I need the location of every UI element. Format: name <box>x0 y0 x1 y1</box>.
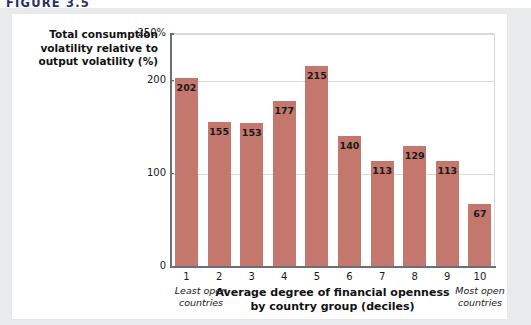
y-tick-label-100: 100 <box>124 167 166 178</box>
x-axis-line <box>170 266 496 268</box>
bar <box>371 161 394 266</box>
bar-slot: 215 <box>300 33 333 266</box>
bar-slot: 155 <box>203 33 236 266</box>
bar-slot: 177 <box>268 33 301 266</box>
bar <box>338 136 361 267</box>
x-tick-label-2: 2 <box>203 271 236 282</box>
bar-chart: Total consumption volatility relative to… <box>0 0 531 325</box>
x-axis-title-line2: by country group (deciles) <box>200 300 465 314</box>
bar <box>403 146 426 266</box>
x-tick-label-10: 10 <box>463 271 496 282</box>
y-tick-label-0: 0 <box>124 260 166 271</box>
x-tick-label-9: 9 <box>431 271 464 282</box>
x-tick-label-6: 6 <box>333 271 366 282</box>
bar-slot: 113 <box>431 33 464 266</box>
x-tick-label-7: 7 <box>366 271 399 282</box>
x-tick-label-3: 3 <box>235 271 268 282</box>
bar-series: 202 155 153 177 215 140 113 129 <box>170 33 496 266</box>
bar <box>175 78 198 266</box>
bar <box>240 123 263 266</box>
bar-value-label: 215 <box>300 70 333 81</box>
bar-value-label: 67 <box>463 208 496 219</box>
x-tick-label-5: 5 <box>300 271 333 282</box>
bar-value-label: 113 <box>431 165 464 176</box>
bar <box>436 161 459 266</box>
y-tick-labels: 250% 200 100 0 <box>120 0 166 325</box>
bar-value-label: 155 <box>203 126 236 137</box>
bar-slot: 67 <box>463 33 496 266</box>
bar-slot: 153 <box>235 33 268 266</box>
x-axis-title: Average degree of financial openness by … <box>200 286 465 314</box>
bar <box>305 66 328 266</box>
x-tick-label-1: 1 <box>170 271 203 282</box>
bar-value-label: 202 <box>170 82 203 93</box>
x-tick-label-4: 4 <box>268 271 301 282</box>
bar-value-label: 140 <box>333 140 366 151</box>
y-tick-mark-0 <box>170 266 174 268</box>
x-axis-title-line1: Average degree of financial openness <box>200 286 465 300</box>
bar-slot: 140 <box>333 33 366 266</box>
bar-value-label: 177 <box>268 105 301 116</box>
bar-value-label: 153 <box>235 127 268 138</box>
bar-value-label: 129 <box>398 150 431 161</box>
bar-slot: 113 <box>366 33 399 266</box>
y-tick-label-250: 250% <box>124 27 166 38</box>
bar-slot: 129 <box>398 33 431 266</box>
bar-slot: 202 <box>170 33 203 266</box>
bar <box>273 101 296 266</box>
bar <box>208 122 231 267</box>
y-tick-label-200: 200 <box>124 74 166 85</box>
x-tick-label-8: 8 <box>398 271 431 282</box>
bar-value-label: 113 <box>366 165 399 176</box>
